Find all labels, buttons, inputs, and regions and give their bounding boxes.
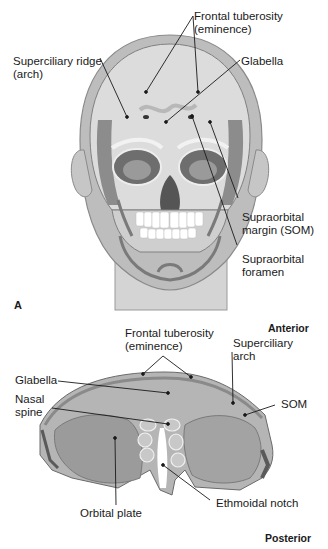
label-frontal-tuberosity-a-line1: Frontal tuberosity xyxy=(194,10,283,23)
label-supraorbital-foramen-line1: Supraorbital xyxy=(242,253,304,266)
label-glabella-b: Glabella xyxy=(15,374,57,387)
label-superciliary-ridge-line1: Superciliary ridge xyxy=(13,55,102,68)
label-glabella-a: Glabella xyxy=(241,55,283,68)
label-nasal-spine-line1: Nasal xyxy=(15,393,44,406)
label-frontal-tuberosity-b-line2: (eminence) xyxy=(125,340,183,353)
panel-label-a: A xyxy=(14,299,22,311)
label-supraorbital-margin-line2: margin (SOM) xyxy=(242,224,314,237)
head-illustration xyxy=(71,35,268,310)
label-nasal-spine-line2: spine xyxy=(15,406,43,419)
label-superciliary-arch-line2: arch xyxy=(233,350,255,363)
orientation-posterior: Posterior xyxy=(265,532,311,545)
label-frontal-tuberosity-b-line1: Frontal tuberosity xyxy=(125,327,214,340)
label-superciliary-arch-line1: Superciliary xyxy=(233,337,293,350)
label-supraorbital-margin-line1: Supraorbital xyxy=(242,211,304,224)
label-supraorbital-foramen-line2: foramen xyxy=(242,266,284,279)
label-superciliary-ridge-line2: (arch) xyxy=(13,68,43,81)
frontal-bone-illustration xyxy=(40,372,273,495)
orientation-anterior: Anterior xyxy=(268,322,309,335)
label-orbital-plate: Orbital plate xyxy=(80,507,142,520)
label-frontal-tuberosity-a-line2: (eminence) xyxy=(194,23,252,36)
label-ethmoidal-notch: Ethmoidal notch xyxy=(216,497,298,510)
label-som: SOM xyxy=(281,398,307,411)
